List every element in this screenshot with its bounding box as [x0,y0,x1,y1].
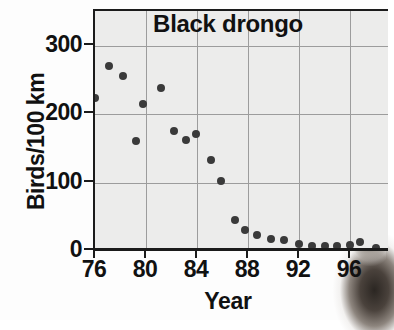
data-point [139,100,147,108]
x-axis-tick-label: 80 [133,258,158,281]
y-axis-tick-label: 0 [70,238,82,261]
x-axis-tick-label: 84 [184,258,209,281]
gridline-horizontal [95,46,388,47]
y-axis-tick-label: 200 [45,101,82,124]
y-axis-tick [84,248,93,250]
data-point [182,136,190,144]
data-point [267,235,275,243]
data-point [192,130,200,138]
data-point [280,236,288,244]
data-point [241,226,249,234]
data-point [132,137,140,145]
y-axis-tick [84,43,93,45]
x-axis-label: Year [93,288,363,315]
gridline-horizontal [95,114,388,115]
data-point [170,127,178,135]
data-point [356,238,364,246]
x-axis-tick-label: 88 [235,258,260,281]
x-axis-line [93,248,388,251]
data-point [93,94,99,102]
data-point [119,72,127,80]
chart-title-wrapper: Black drongo [93,10,363,38]
x-axis-tick-label: 92 [286,258,311,281]
data-point [217,177,225,185]
data-point [207,156,215,164]
y-axis-tick-label: 300 [45,33,82,56]
gridline-horizontal [95,183,388,184]
x-axis-tick-label: 96 [337,258,362,281]
data-point [157,84,165,92]
y-axis-tick [84,111,93,113]
chart-title: Black drongo [93,10,363,38]
data-point [231,216,239,224]
y-axis-label: Birds/100 km [23,22,50,262]
plot-area [93,9,388,249]
data-point [253,231,261,239]
x-axis-tick-label: 76 [82,258,107,281]
y-axis-tick [84,180,93,182]
data-point [295,240,303,248]
y-axis-tick-label: 100 [45,169,82,192]
data-point [105,62,113,70]
